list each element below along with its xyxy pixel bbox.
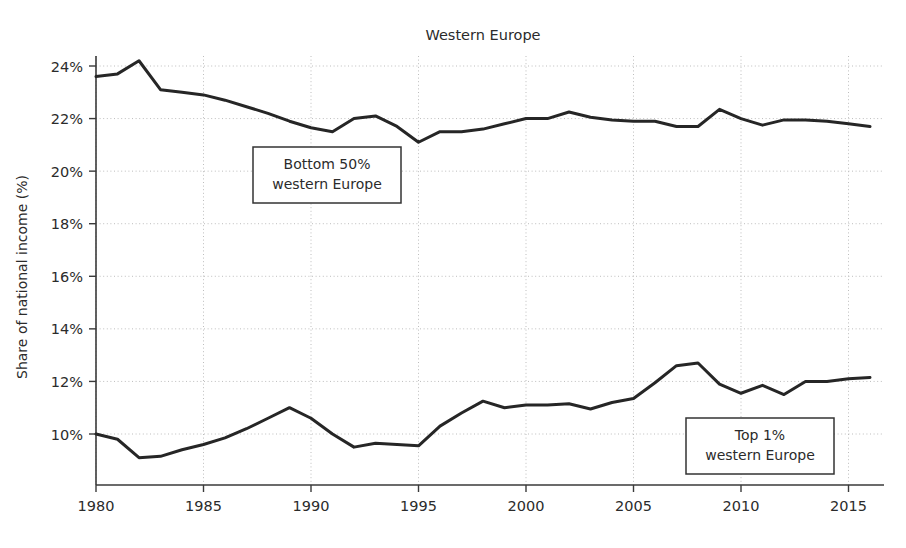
y-tick-label: 12% bbox=[51, 374, 83, 390]
annotation-top-1-label: Top 1%western Europe bbox=[686, 418, 834, 474]
y-tick-label: 18% bbox=[51, 216, 83, 232]
y-axis-label: Share of national income (%) bbox=[14, 175, 30, 379]
chart-figure: Western Europe Share of national income … bbox=[0, 0, 906, 548]
y-tick-label: 24% bbox=[51, 59, 83, 75]
annotation-line: western Europe bbox=[705, 447, 815, 463]
x-tick-label: 2010 bbox=[723, 498, 760, 514]
x-tick-label: 1985 bbox=[185, 498, 222, 514]
annotation-line: western Europe bbox=[272, 176, 382, 192]
x-tick-label: 1995 bbox=[400, 498, 437, 514]
y-tick-label: 20% bbox=[51, 164, 83, 180]
x-tick-label: 1980 bbox=[78, 498, 115, 514]
annotation-bottom-50-label: Bottom 50%western Europe bbox=[253, 147, 401, 203]
annotation-line: Top 1% bbox=[734, 427, 785, 443]
chart-title: Western Europe bbox=[425, 27, 540, 43]
y-tick-label: 16% bbox=[51, 269, 83, 285]
y-tick-label: 14% bbox=[51, 321, 83, 337]
y-tick-label: 22% bbox=[51, 111, 83, 127]
x-tick-label: 2005 bbox=[615, 498, 652, 514]
x-tick-label: 2015 bbox=[830, 498, 867, 514]
annotation-line: Bottom 50% bbox=[284, 156, 371, 172]
x-tick-label: 1990 bbox=[293, 498, 330, 514]
x-tick-label: 2000 bbox=[508, 498, 545, 514]
y-tick-label: 10% bbox=[51, 427, 83, 443]
line-chart-western-europe: Western Europe Share of national income … bbox=[0, 0, 906, 548]
